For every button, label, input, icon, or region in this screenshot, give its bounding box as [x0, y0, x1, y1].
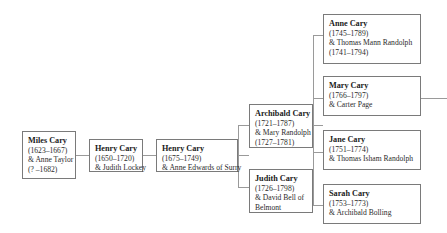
node-spouse: & Anne Edwards of Surry	[162, 163, 232, 172]
connector-trunk-to-mary	[313, 98, 323, 99]
node-dates: (1751–1774)	[329, 145, 415, 154]
connector-henry1-to-henry2	[143, 155, 156, 156]
connector-miles-to-henry1	[76, 155, 89, 156]
node-dates: (1753–1773)	[329, 199, 415, 208]
node-mary-cary[interactable]: Mary Cary (1766–1797) & Carter Page	[323, 76, 421, 116]
node-dates: (1766–1797)	[329, 91, 415, 100]
node-dates: (1721–1787)	[255, 119, 307, 128]
node-name: Anne Cary	[329, 19, 415, 29]
node-spouse-dates: (1741–1794)	[329, 48, 415, 57]
node-miles-cary[interactable]: Miles Cary (1623–1667) & Anne Taylor (? …	[22, 131, 76, 179]
node-spouse: & Mary Randolph	[255, 128, 307, 137]
node-name: Archibald Cary	[255, 109, 307, 119]
node-henry-cary-1[interactable]: Henry Cary (1650–1720) & Judith Lockey	[89, 139, 143, 172]
connector-trunk-gen4	[238, 125, 239, 187]
connector-trunk-to-judith	[238, 187, 249, 188]
node-dates: (1623–1667)	[28, 146, 70, 155]
connector-trunk-gen5	[313, 35, 314, 205]
node-dates: (1745–1789)	[329, 29, 415, 38]
node-judith-cary[interactable]: Judith Cary (1726–1798) & David Bell of …	[249, 169, 313, 213]
node-name: Henry Cary	[162, 144, 232, 154]
node-spouse: & Thomas Mann Randolph	[329, 38, 415, 47]
connector-archibald-to-trunk	[313, 125, 323, 126]
node-name: Miles Cary	[28, 136, 70, 146]
node-spouse: & Judith Lockey	[95, 163, 137, 172]
node-spouse: & Thomas Isham Randolph	[329, 154, 415, 163]
node-anne-cary[interactable]: Anne Cary (1745–1789) & Thomas Mann Rand…	[323, 14, 421, 64]
node-spouse-dates: Belmont	[255, 203, 307, 212]
node-jane-cary[interactable]: Jane Cary (1751–1774) & Thomas Isham Ran…	[323, 130, 421, 170]
node-archibald-cary[interactable]: Archibald Cary (1721–1787) & Mary Randol…	[249, 104, 313, 148]
connector-trunk-to-jane	[313, 152, 323, 153]
node-spouse-dates: (? –1682)	[28, 165, 70, 174]
node-dates: (1675–1749)	[162, 154, 232, 163]
connector-trunk-to-anne	[313, 35, 323, 36]
node-dates: (1650–1720)	[95, 154, 137, 163]
connector-trunk-to-archibald	[238, 125, 249, 126]
node-spouse: & Archibald Bolling	[329, 208, 415, 217]
node-name: Mary Cary	[329, 81, 415, 91]
node-spouse-dates: (1727–1781)	[255, 138, 307, 147]
family-tree-diagram: Miles Cary (1623–1667) & Anne Taylor (? …	[0, 0, 447, 233]
node-henry-cary-2[interactable]: Henry Cary (1675–1749) & Anne Edwards of…	[156, 139, 238, 172]
connector-mary-continuation	[421, 98, 447, 99]
node-spouse: & Anne Taylor	[28, 155, 70, 164]
node-name: Sarah Cary	[329, 189, 415, 199]
node-dates: (1726–1798)	[255, 184, 307, 193]
node-name: Henry Cary	[95, 144, 137, 154]
node-spouse: & David Bell of	[255, 193, 307, 202]
connector-trunk-to-sarah	[313, 205, 323, 206]
node-sarah-cary[interactable]: Sarah Cary (1753–1773) & Archibald Bolli…	[323, 184, 421, 224]
node-spouse: & Carter Page	[329, 100, 415, 109]
connector-henry2-to-trunk	[238, 155, 249, 156]
node-name: Jane Cary	[329, 135, 415, 145]
node-name: Judith Cary	[255, 174, 307, 184]
